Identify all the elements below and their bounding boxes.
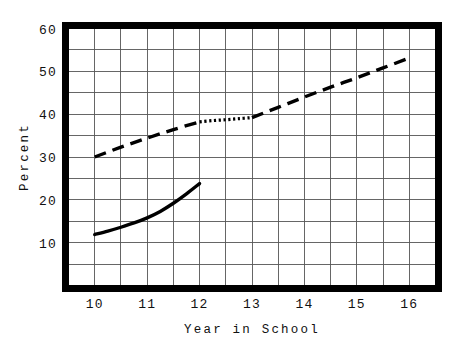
x-tick-label: 12 — [191, 297, 209, 312]
x-tick-label: 14 — [295, 297, 313, 312]
y-axis-title: Percent — [18, 123, 32, 191]
y-tick-label: 40 — [39, 108, 57, 123]
chart-figure: 10111213141516 102030405060 Year in Scho… — [0, 0, 464, 349]
x-tick-label: 13 — [243, 297, 261, 312]
x-tick-label: 16 — [400, 297, 418, 312]
x-tick-label: 10 — [86, 297, 104, 312]
x-tick-label: 11 — [138, 297, 156, 312]
line-chart-svg: 10111213141516 102030405060 Year in Scho… — [0, 0, 464, 349]
y-tick-label: 30 — [39, 151, 57, 166]
x-tick-label: 15 — [348, 297, 366, 312]
y-tick-label: 50 — [39, 65, 57, 80]
x-axis-title: Year in School — [184, 323, 320, 337]
y-tick-label: 20 — [39, 194, 57, 209]
y-tick-label: 60 — [39, 23, 57, 38]
figure-background — [0, 0, 464, 349]
y-tick-label: 10 — [39, 237, 57, 252]
